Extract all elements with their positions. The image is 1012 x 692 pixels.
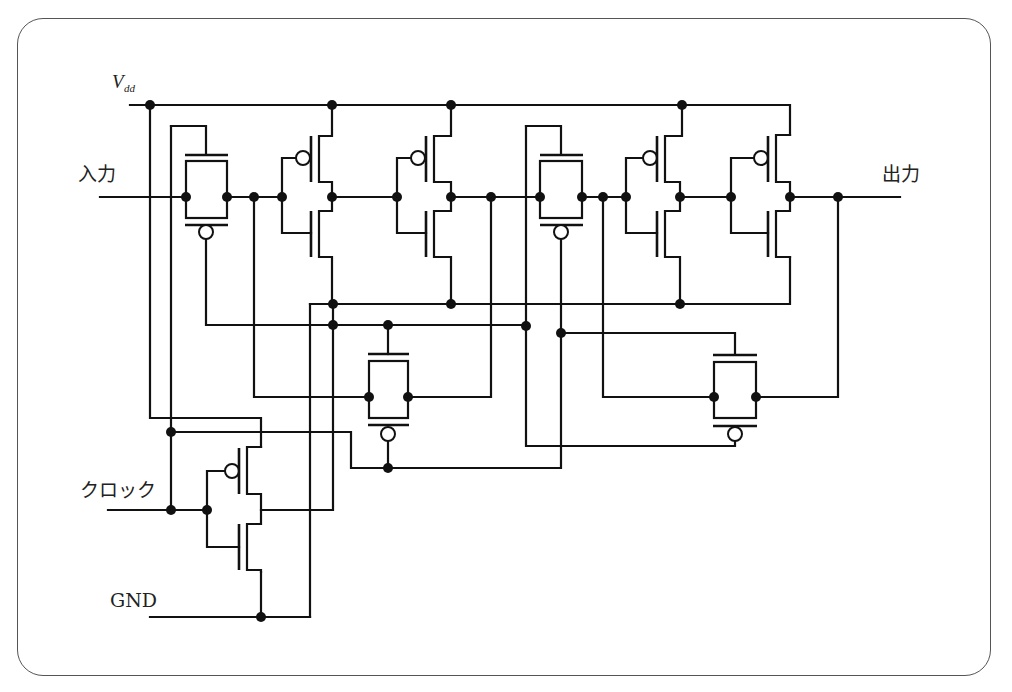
inverter-2 [397, 105, 451, 304]
transmission-gate-4 [713, 355, 757, 441]
transmission-gate-1 [185, 155, 228, 239]
clock-inverter [207, 447, 261, 572]
transmission-gate-2 [540, 155, 583, 239]
vdd-label-sub: dd [124, 82, 136, 94]
inverter-3 [626, 105, 682, 304]
transmission-gate-3 [368, 354, 409, 441]
gnd-label: GND [110, 589, 157, 611]
inverter-1 [282, 105, 332, 304]
input-label: 入力 [78, 163, 116, 185]
output-label: 出力 [882, 163, 920, 185]
clock-label: クロック [80, 479, 156, 501]
circuit-diagram: V dd 入力 出力 クロック GND [0, 0, 1012, 692]
inverter-4 [731, 135, 790, 257]
